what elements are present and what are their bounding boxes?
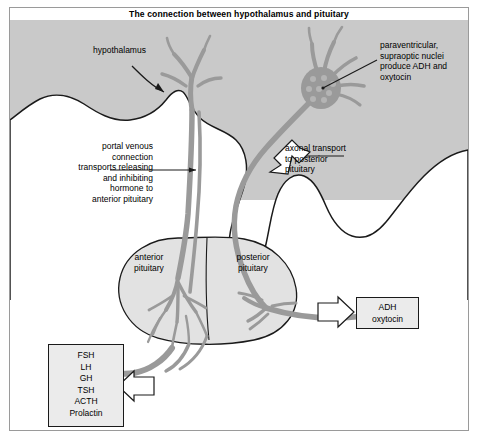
anterior-hormone-box: FSH LH GH TSH ACTH Prolactin [48, 344, 124, 427]
label-hypothalamus: hypothalamus [93, 45, 146, 56]
label-portal-venous-connection: portal venous connection transports rele… [33, 141, 153, 204]
hormone-item: GH [49, 373, 123, 385]
hormone-item: LH [49, 362, 123, 374]
hormone-item: TSH [49, 385, 123, 397]
leader-dot-paraventricular [321, 86, 324, 89]
diagram-page: The connection between hypothalamus and … [0, 0, 478, 440]
hormone-item: FSH [49, 350, 123, 362]
hormone-item: ACTH [49, 396, 123, 408]
label-axonal-transport: axonal transport to posterior pituitary [285, 143, 346, 175]
diagram-title: The connection between hypothalamus and … [0, 9, 478, 19]
label-posterior-pituitary: posterior pituitary [228, 252, 278, 273]
posterior-hormone-box: ADH oxytocin [356, 297, 419, 329]
label-anterior-pituitary: anterior pituitary [126, 252, 172, 273]
hormone-item: Prolactin [49, 408, 123, 420]
hormone-item: ADH [357, 302, 418, 314]
hormone-item: oxytocin [357, 314, 418, 326]
label-paraventricular-nuclei: paraventricular, supraoptic nuclei produ… [380, 40, 447, 82]
